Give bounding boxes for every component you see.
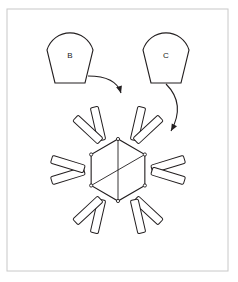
hexagon-joint (143, 153, 146, 156)
rosette-assembly (50, 106, 185, 234)
hexagon-joint (116, 199, 119, 202)
parts-group: BC (47, 33, 189, 83)
capsule-body (151, 167, 186, 185)
assembly-diagram: BC (0, 0, 238, 282)
arrow-curve (166, 84, 177, 131)
figure-canvas: BC (0, 0, 238, 282)
part-B: B (47, 33, 93, 83)
connector-capsule-lower-right-petal (151, 167, 186, 185)
part-label-C: C (163, 51, 169, 60)
arrow-b-to-top-petal (88, 76, 124, 94)
part-label-B: B (67, 51, 72, 60)
connector-capsule-upper-left-petal (50, 155, 85, 173)
hexagon-joint (90, 153, 93, 156)
hexagon-joint (90, 184, 93, 187)
capsule-body (50, 155, 85, 173)
arrow-c-to-upper-right-petal (166, 84, 177, 132)
arrow-head (168, 123, 177, 132)
hexagon-joint (116, 137, 119, 140)
part-C: C (143, 33, 189, 83)
arrow-curve (88, 76, 121, 93)
hexagon-joint (143, 184, 146, 187)
